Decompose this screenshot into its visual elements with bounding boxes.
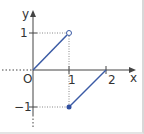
y-tick-label-1: 1 (20, 27, 28, 39)
origin-label: O (23, 73, 32, 85)
x-tick-label-2: 2 (108, 74, 116, 86)
y-axis-label: y (22, 8, 29, 20)
closed-point (67, 105, 72, 110)
open-point (67, 31, 72, 36)
x-tick-label-1: 1 (68, 74, 76, 86)
y-tick-label-minus-1: −1 (14, 101, 32, 113)
x-axis-label: x (130, 72, 137, 84)
y-axis-arrow-icon (30, 10, 36, 17)
segment-1 (33, 35, 67, 70)
